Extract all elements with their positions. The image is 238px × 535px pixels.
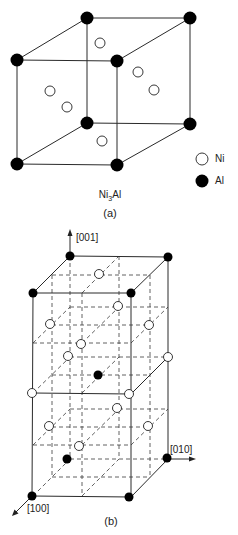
al-atom	[164, 253, 173, 262]
ni-atom	[45, 86, 55, 96]
ni-atom	[45, 422, 54, 431]
axis-100-label: [100]	[27, 503, 49, 514]
legend-al-icon	[196, 175, 209, 188]
ni-atom	[113, 404, 122, 413]
al-atom	[184, 118, 197, 131]
ni-atom	[95, 270, 104, 279]
ni-atom	[145, 321, 154, 330]
ni-atom	[77, 340, 86, 349]
al-atom	[11, 158, 24, 171]
ni-atom	[46, 320, 55, 329]
unit-cell-b	[12, 229, 196, 516]
ni-atom	[75, 442, 84, 451]
caption-a: (a)	[103, 207, 116, 219]
crystal-structure-figure	[0, 0, 238, 535]
ni-atom	[64, 352, 73, 361]
al-atom	[111, 159, 124, 172]
unit-cell-a	[11, 12, 197, 172]
al-atom	[184, 12, 197, 25]
al-atom	[127, 289, 136, 298]
al-atom	[66, 252, 75, 261]
ni-atom	[28, 389, 37, 398]
ni-atom	[62, 102, 72, 112]
caption-b: (b)	[104, 515, 117, 527]
legend-ni-icon	[196, 153, 208, 165]
al-atom	[94, 371, 103, 380]
axis-001-label: [001]	[76, 232, 98, 243]
ni-atom	[133, 67, 143, 77]
ni-atom	[149, 85, 159, 95]
al-atom	[81, 12, 94, 25]
ni-atom	[97, 136, 107, 146]
ni-atom	[114, 302, 123, 311]
formula-suffix: Al	[112, 189, 121, 200]
ni-atom	[164, 353, 173, 362]
axis-010-label: [010]	[170, 444, 192, 455]
al-atom	[28, 492, 37, 501]
al-atom	[63, 455, 72, 464]
al-atom	[29, 289, 38, 298]
al-atom	[81, 117, 94, 130]
ni-atom	[125, 390, 134, 399]
al-atom	[111, 55, 124, 68]
ni-atom	[95, 38, 105, 48]
legend-ni-label: Ni	[215, 153, 224, 164]
formula-label: Ni3Al	[99, 189, 121, 202]
ni-atom	[144, 422, 153, 431]
al-atom	[11, 54, 24, 67]
legend-al-label: Al	[215, 175, 224, 186]
al-atom	[125, 493, 134, 502]
